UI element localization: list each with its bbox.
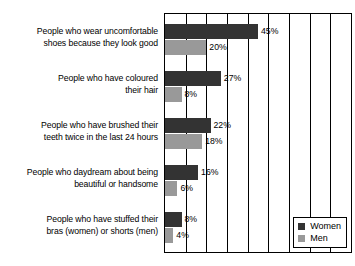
bar-men-3 <box>165 181 177 196</box>
bar-value-men-4: 4% <box>173 228 189 243</box>
category-label-1-line1: People who have coloured <box>0 73 158 85</box>
bar-value-women-2: 22% <box>211 118 231 133</box>
category-label-3: People who daydream about being beautifu… <box>0 167 158 190</box>
bar-men-4 <box>165 228 173 243</box>
bar-value-men-2: 18% <box>202 134 222 149</box>
category-label-2: People who have brushed their teeth twic… <box>0 120 158 143</box>
legend-label-women: Women <box>310 220 341 232</box>
category-label-3-line1: People who daydream about being <box>0 167 158 179</box>
category-label-3-line2: beautiful or handsome <box>0 179 158 191</box>
bar-value-men-1: 8% <box>182 87 198 102</box>
bar-men-0 <box>165 40 206 55</box>
gridline-40 <box>248 14 249 252</box>
bar-women-1 <box>165 71 221 86</box>
bar-value-men-3: 6% <box>177 181 193 196</box>
bar-women-0 <box>165 24 258 39</box>
legend: Women Men <box>293 217 347 248</box>
bar-women-2 <box>165 118 211 133</box>
category-label-1: People who have coloured their hair <box>0 73 158 96</box>
bar-value-men-0: 20% <box>206 40 226 55</box>
category-label-1-line2: their hair <box>0 85 158 97</box>
bar-men-1 <box>165 87 182 102</box>
legend-item-women: Women <box>298 220 341 232</box>
legend-swatch-men-icon <box>298 235 305 242</box>
bar-value-women-4: 8% <box>182 212 198 227</box>
category-label-0: People who wear uncomfortable shoes beca… <box>0 26 158 49</box>
category-label-2-line1: People who have brushed their <box>0 120 158 132</box>
bar-value-women-0: 45% <box>258 24 278 39</box>
gridline-30 <box>227 14 228 252</box>
category-label-0-line2: shoes because they look good <box>0 38 158 50</box>
bar-men-2 <box>165 134 202 149</box>
category-label-4-line1: People who have stuffed their <box>0 214 158 226</box>
bar-chart: People who wear uncomfortable shoes beca… <box>0 0 355 266</box>
bar-women-4 <box>165 212 182 227</box>
category-label-2-line2: teeth twice in the last 24 hours <box>0 132 158 144</box>
legend-item-men: Men <box>298 232 341 244</box>
category-label-0-line1: People who wear uncomfortable <box>0 26 158 38</box>
category-label-4-line2: bras (women) or shorts (men) <box>0 226 158 238</box>
bar-value-women-3: 16% <box>198 165 218 180</box>
plot-area: 45% 20% 27% 8% 22% 18% 16% 6% 8% 4% <box>164 13 352 253</box>
legend-label-men: Men <box>310 232 328 244</box>
gridline-50 <box>268 14 269 252</box>
category-axis-labels: People who wear uncomfortable shoes beca… <box>0 13 162 253</box>
gridline-60 <box>289 14 290 252</box>
category-label-4: People who have stuffed their bras (wome… <box>0 214 158 237</box>
bar-women-3 <box>165 165 198 180</box>
legend-swatch-women-icon <box>298 223 305 230</box>
bar-value-women-1: 27% <box>221 71 241 86</box>
